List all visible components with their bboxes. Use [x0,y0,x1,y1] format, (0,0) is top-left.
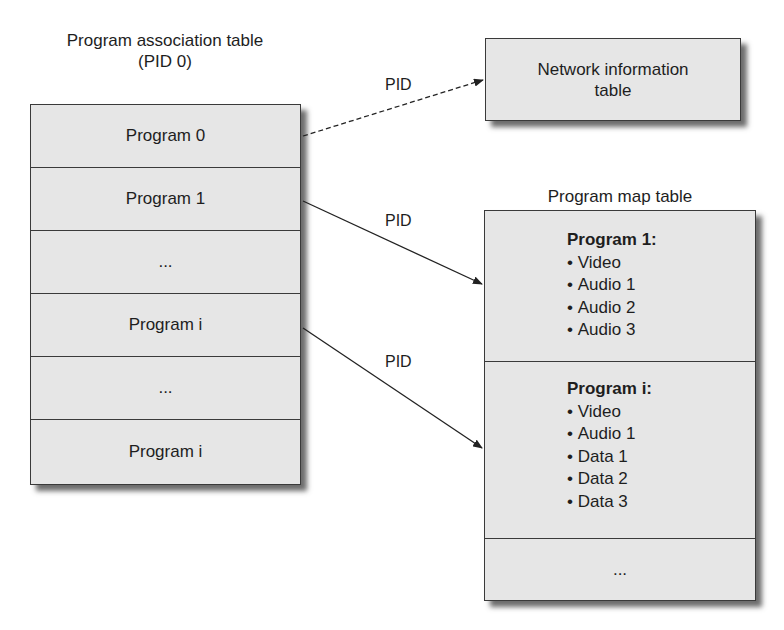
pid-label-program-1: PID [385,212,412,230]
pid-label-nit: PID [385,76,412,94]
pid-label-program-i: PID [385,353,412,371]
arrows-layer [0,0,784,630]
arrow-programi-to-pmt [303,328,482,448]
